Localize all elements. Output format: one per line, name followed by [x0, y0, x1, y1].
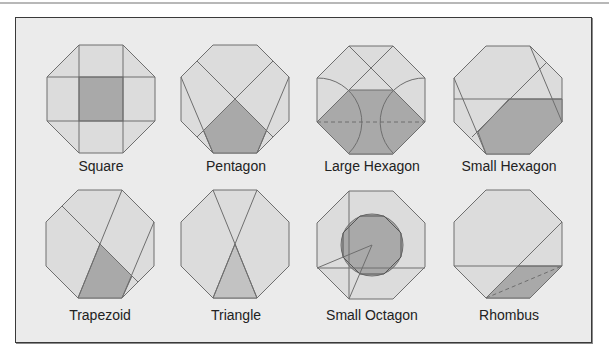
figure-small-octagon	[317, 191, 425, 299]
figure-small-hexagon	[454, 46, 562, 154]
label-pentagon: Pentagon	[166, 158, 306, 174]
figure-triangle	[181, 190, 289, 298]
figure-large-hexagon	[317, 46, 425, 154]
figure-rhombus	[454, 190, 562, 298]
label-square: Square	[31, 158, 171, 174]
label-rhombus: Rhombus	[439, 307, 579, 323]
label-small-hexagon: Small Hexagon	[439, 158, 579, 174]
label-small-octagon: Small Octagon	[302, 307, 442, 323]
figure-trapezoid	[46, 190, 154, 298]
octagon-dissections	[0, 0, 609, 357]
figure-pentagon	[181, 45, 289, 153]
label-triangle: Triangle	[166, 307, 306, 323]
figure-square	[47, 45, 155, 153]
label-trapezoid: Trapezoid	[30, 307, 170, 323]
label-large-hexagon: Large Hexagon	[302, 158, 442, 174]
